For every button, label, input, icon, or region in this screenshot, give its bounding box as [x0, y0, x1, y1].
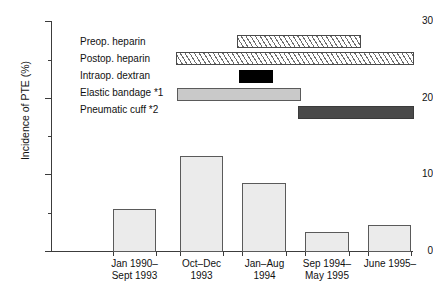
y-tick-label-30: 30 [391, 16, 433, 26]
y-tick-label-10: 10 [391, 169, 433, 179]
x-category-label-3-line1: Jan–Aug [245, 258, 284, 269]
timeline-bar-postop-heparin [176, 52, 414, 65]
x-category-label-4-line1: Sep 1994– [303, 258, 351, 269]
x-category-label-5-line1: June 1995– [364, 258, 416, 269]
y-tick-0 [45, 251, 51, 252]
y-tick-20 [45, 98, 51, 99]
x-tick-4a [305, 252, 306, 256]
x-tick-2b [223, 252, 224, 256]
x-category-label-4-line2: May 1995 [289, 270, 365, 282]
x-tick-4b [349, 252, 350, 256]
x-category-label-1-line1: Jan 1990– [111, 258, 158, 269]
legend-label-postop-heparin: Postop. heparin [80, 53, 150, 64]
y-axis-title: Incidence of PTE (%) [20, 31, 31, 191]
timeline-bar-intraop-dextran [239, 70, 273, 83]
x-tick-3b [286, 252, 287, 256]
timeline-bar-preop-heparin [237, 35, 361, 48]
legend-label-intraop-dextran: Intraop. dextran [80, 70, 150, 81]
y-tick-label-20: 20 [391, 93, 433, 103]
bar-sep1994-may1995 [305, 232, 349, 252]
y-axis-line [51, 21, 52, 252]
timeline-bar-pneumatic-cuff [298, 106, 414, 119]
legend-label-elastic-bandage: Elastic bandage *1 [80, 87, 163, 98]
y-tick-minor-5 [48, 213, 51, 214]
legend-label-preop-heparin: Preop. heparin [80, 36, 146, 47]
x-tick-5b [411, 252, 412, 256]
bar-jan-aug-1994 [242, 183, 286, 252]
x-tick-5a [368, 252, 369, 256]
x-tick-1b [156, 252, 157, 256]
bar-june1995 [368, 225, 411, 252]
legend-label-pneumatic-cuff: Pneumatic cuff *2 [80, 104, 158, 115]
y-tick-minor-15 [48, 136, 51, 137]
y-tick-10 [45, 174, 51, 175]
x-category-label-2-line1: Oct–Dec [182, 258, 221, 269]
timeline-bar-elastic-bandage [177, 88, 301, 101]
x-axis-line [51, 251, 413, 252]
pte-incidence-chart: Incidence of PTE (%) 0 10 20 30 Preop. h… [0, 0, 433, 296]
bar-oct-dec-1993 [180, 156, 223, 252]
x-category-label-5: June 1995– [352, 258, 428, 270]
x-tick-2a [180, 252, 181, 256]
bar-jan1990-sept1993 [113, 209, 156, 252]
y-tick-minor-25 [48, 60, 51, 61]
x-category-label-1-line2: Sept 1993 [97, 270, 172, 282]
y-tick-30 [45, 21, 51, 22]
x-tick-1a [113, 252, 114, 256]
x-tick-3a [242, 252, 243, 256]
x-category-label-1: Jan 1990– Sept 1993 [97, 258, 172, 282]
